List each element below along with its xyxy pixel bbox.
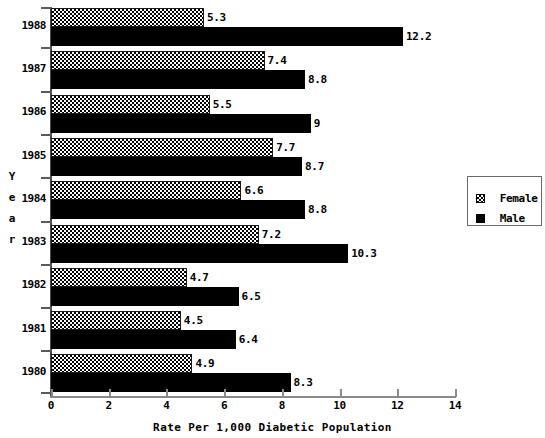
bar-value-label: 7.2 bbox=[262, 225, 281, 244]
y-axis-tick bbox=[41, 134, 52, 136]
bar-value-label: 6.6 bbox=[244, 181, 263, 200]
x-axis-tick bbox=[109, 389, 111, 397]
bar-male-1988 bbox=[51, 27, 403, 46]
bar-value-label: 8.7 bbox=[305, 157, 324, 176]
bar-male-1986 bbox=[51, 114, 311, 133]
bar-value-label: 9 bbox=[314, 114, 320, 133]
x-axis-tick-label: 2 bbox=[94, 400, 124, 412]
bar-male-1981 bbox=[51, 330, 236, 349]
x-axis-tick-label: 8 bbox=[267, 400, 297, 412]
y-axis-tick bbox=[41, 221, 52, 223]
y-axis-tick bbox=[41, 91, 52, 93]
bar-male-1984 bbox=[51, 200, 305, 219]
year-axis-label: 1988 bbox=[8, 20, 46, 32]
bar-female-1985 bbox=[51, 138, 273, 157]
bar-value-label: 6.4 bbox=[239, 330, 258, 349]
y-axis-tick bbox=[41, 264, 52, 266]
x-axis-tick-label: 4 bbox=[151, 400, 181, 412]
bar-value-label: 7.7 bbox=[276, 138, 295, 157]
bar-male-1985 bbox=[51, 157, 302, 176]
year-axis-label: 1981 bbox=[8, 323, 46, 335]
bar-value-label: 6.5 bbox=[242, 287, 261, 306]
bar-female-1983 bbox=[51, 225, 259, 244]
legend-item-female: Female bbox=[476, 187, 538, 199]
x-axis-tick-label: 12 bbox=[382, 400, 412, 412]
year-axis-label: 1980 bbox=[8, 366, 46, 378]
x-axis-tick bbox=[282, 389, 284, 397]
chart-legend: Female Male bbox=[467, 176, 542, 226]
bar-female-1984 bbox=[51, 181, 241, 200]
legend-item-male: Male bbox=[476, 207, 525, 219]
year-axis-label: 1986 bbox=[8, 106, 46, 118]
bar-value-label: 5.3 bbox=[207, 8, 226, 27]
bar-value-label: 12.2 bbox=[406, 27, 431, 46]
x-axis-tick-label: 14 bbox=[440, 400, 470, 412]
x-axis-tick-label: 0 bbox=[36, 400, 66, 412]
x-axis-tick bbox=[455, 389, 457, 397]
bar-female-1987 bbox=[51, 51, 265, 70]
x-axis-tick bbox=[397, 389, 399, 397]
bar-male-1980 bbox=[51, 373, 291, 392]
x-axis-tick-label: 6 bbox=[209, 400, 239, 412]
bar-value-label: 8.3 bbox=[294, 373, 313, 392]
legend-label-male: Male bbox=[500, 212, 525, 225]
bar-male-1987 bbox=[51, 70, 305, 89]
chart-canvas: Year 19885.312.219877.48.819865.5919857.… bbox=[0, 0, 545, 438]
y-axis-title-letter: Y bbox=[5, 166, 19, 187]
legend-swatch-male-icon bbox=[476, 214, 485, 223]
year-axis-label: 1987 bbox=[8, 63, 46, 75]
bar-female-1980 bbox=[51, 354, 192, 373]
legend-swatch-female-icon bbox=[476, 194, 485, 203]
bar-female-1981 bbox=[51, 311, 181, 330]
x-axis-tick bbox=[166, 389, 168, 397]
x-axis-tick bbox=[340, 389, 342, 397]
year-axis-label: 1982 bbox=[8, 279, 46, 291]
bar-value-label: 5.5 bbox=[213, 95, 232, 114]
y-axis-title-letter: a bbox=[5, 208, 19, 229]
x-axis-line bbox=[50, 396, 456, 398]
bar-value-label: 10.3 bbox=[351, 244, 376, 263]
bar-female-1986 bbox=[51, 95, 210, 114]
bar-value-label: 4.5 bbox=[184, 311, 203, 330]
bar-value-label: 4.9 bbox=[195, 354, 214, 373]
y-axis-tick bbox=[41, 47, 52, 49]
bar-male-1983 bbox=[51, 244, 348, 263]
year-axis-label: 1983 bbox=[8, 236, 46, 248]
year-axis-label: 1984 bbox=[8, 193, 46, 205]
x-axis-tick bbox=[51, 389, 53, 397]
bar-value-label: 8.8 bbox=[308, 200, 327, 219]
legend-label-female: Female bbox=[500, 192, 538, 205]
bar-value-label: 8.8 bbox=[308, 70, 327, 89]
bar-female-1988 bbox=[51, 8, 204, 27]
bar-male-1982 bbox=[51, 287, 239, 306]
year-axis-label: 1985 bbox=[8, 150, 46, 162]
bar-value-label: 7.4 bbox=[268, 51, 287, 70]
y-axis-tick bbox=[41, 307, 52, 309]
x-axis-title: Rate Per 1,000 Diabetic Population bbox=[0, 421, 545, 434]
x-axis-tick-label: 10 bbox=[325, 400, 355, 412]
bar-value-label: 4.7 bbox=[190, 268, 209, 287]
x-axis-tick bbox=[224, 389, 226, 397]
y-axis-tick bbox=[41, 177, 52, 179]
bar-female-1982 bbox=[51, 268, 187, 287]
y-axis-tick bbox=[41, 350, 52, 352]
